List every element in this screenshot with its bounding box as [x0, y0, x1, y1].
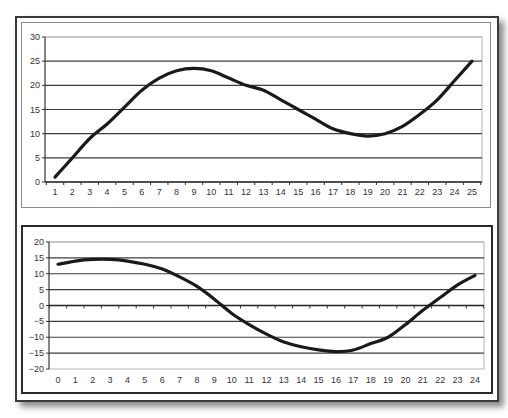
x-tick-label: 6	[160, 375, 165, 385]
x-tick-label: 22	[435, 375, 445, 385]
x-tick-label: 20	[380, 187, 390, 197]
x-tick-label: 15	[314, 375, 324, 385]
x-tick-label: 4	[125, 375, 130, 385]
x-tick-label: 18	[366, 375, 376, 385]
x-tick-label: 25	[467, 187, 477, 197]
x-tick-label: 2	[90, 375, 95, 385]
y-tick-label: 25	[30, 56, 40, 66]
x-tick-label: 21	[418, 375, 428, 385]
x-tick-label: 24	[470, 375, 480, 385]
x-tick-label: 19	[363, 187, 373, 197]
x-tick-label: 19	[383, 375, 393, 385]
x-tick-label: 9	[212, 375, 217, 385]
x-tick-label: 10	[206, 187, 216, 197]
x-tick-label: 0	[55, 375, 60, 385]
y-tick-label: 10	[30, 129, 40, 139]
x-tick-label: 3	[87, 187, 92, 197]
x-tick-label: 1	[73, 375, 78, 385]
x-tick-label: 14	[276, 187, 286, 197]
x-tick-label: 16	[331, 375, 341, 385]
x-tick-label: 8	[174, 187, 179, 197]
x-tick-label: 12	[261, 375, 271, 385]
x-tick-label: 10	[227, 375, 237, 385]
x-tick-label: 13	[258, 187, 268, 197]
x-tick-label: 17	[328, 187, 338, 197]
y-tick-label: −5	[34, 316, 44, 326]
x-tick-label: 2	[70, 187, 75, 197]
y-tick-label: 0	[39, 301, 44, 311]
x-tick-label: 5	[122, 187, 127, 197]
y-tick-label: 10	[34, 269, 44, 279]
y-tick-label: 30	[30, 32, 40, 42]
x-tick-label: 5	[142, 375, 147, 385]
x-tick-label: 15	[293, 187, 303, 197]
x-tick-label: 20	[400, 375, 410, 385]
x-tick-label: 21	[397, 187, 407, 197]
x-tick-label: 22	[415, 187, 425, 197]
y-tick-label: 5	[35, 153, 40, 163]
x-tick-label: 1	[52, 187, 57, 197]
x-tick-label: 11	[224, 187, 233, 197]
y-tick-label: −10	[29, 332, 44, 342]
x-tick-label: 24	[450, 187, 460, 197]
y-tick-label: 15	[34, 253, 44, 263]
y-tick-label: 5	[39, 285, 44, 295]
y-tick-label: 0	[35, 177, 40, 187]
x-tick-label: 6	[139, 187, 144, 197]
y-tick-label: 20	[30, 80, 40, 90]
x-tick-label: 13	[279, 375, 289, 385]
x-tick-label: 11	[244, 375, 253, 385]
series-line	[55, 61, 472, 177]
x-tick-label: 18	[345, 187, 355, 197]
y-tick-label: −20	[29, 364, 44, 374]
x-tick-label: 23	[432, 187, 442, 197]
y-tick-label: 15	[30, 105, 40, 115]
bottom-line-chart: −20−15−10−505101520012345678910111213141…	[29, 237, 484, 385]
x-tick-label: 7	[157, 187, 162, 197]
x-tick-label: 4	[105, 187, 110, 197]
x-tick-label: 14	[296, 375, 306, 385]
x-tick-label: 7	[177, 375, 182, 385]
x-tick-label: 12	[241, 187, 251, 197]
x-tick-label: 23	[453, 375, 463, 385]
y-tick-label: −15	[29, 348, 44, 358]
x-tick-label: 8	[194, 375, 199, 385]
top-line-chart: 0510152025301234567891011121314151617181…	[30, 32, 482, 197]
x-tick-label: 9	[191, 187, 196, 197]
x-tick-label: 16	[311, 187, 321, 197]
x-tick-label: 3	[108, 375, 113, 385]
y-tick-label: 20	[34, 237, 44, 247]
charts-canvas: 0510152025301234567891011121314151617181…	[0, 0, 508, 418]
x-tick-label: 17	[348, 375, 358, 385]
